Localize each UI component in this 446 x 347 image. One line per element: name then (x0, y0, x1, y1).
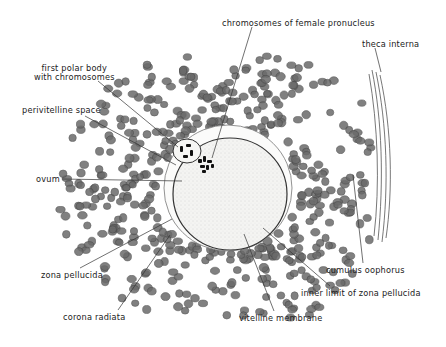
label-first-polar-body: first polar body with chromosomes (34, 64, 115, 83)
label-perivitelline-space: perivitelline space (22, 106, 101, 115)
label-corona-radiata: corona radiata (63, 313, 125, 322)
label-zona-pellucida: zona pellucida (41, 271, 103, 280)
ovum-diagram: chromosomes of female pronucleus theca i… (0, 0, 446, 347)
label-chromosomes-female-pronucleus: chromosomes of female pronucleus (222, 19, 375, 28)
label-vitelline-membrane: vitelline membrane (239, 314, 322, 323)
label-inner-limit-zona-pellucida: inner limit of zona pellucida (301, 289, 421, 298)
label-cumulus-oophorus: cumulus oophorus (326, 266, 405, 275)
theca-interna-fibers (369, 70, 390, 242)
first-polar-body (173, 139, 201, 163)
label-theca-interna: theca interna (362, 40, 419, 49)
label-ovum: ovum (36, 175, 60, 184)
